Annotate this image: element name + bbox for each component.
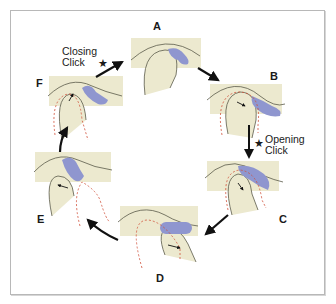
- arrow-a-to-b: [198, 68, 218, 80]
- closing-click-label: Closing Click: [62, 46, 97, 68]
- stage-label-c: C: [279, 214, 287, 225]
- stage-f-joint: [48, 76, 123, 140]
- opening-click-star-icon: ★: [254, 138, 264, 149]
- stage-a-joint: [131, 38, 201, 95]
- closing-click-star-icon: ★: [98, 58, 108, 69]
- stage-c-joint: [205, 161, 283, 215]
- stage-d-joint: [118, 206, 198, 268]
- stage-label-e: E: [37, 214, 44, 225]
- arrow-c-to-d: [206, 215, 228, 234]
- stage-label-b: B: [270, 71, 278, 82]
- arrow-d-to-e: [88, 220, 118, 240]
- stage-label-f: F: [36, 78, 43, 89]
- stage-label-a: A: [153, 21, 161, 32]
- stage-label-d: D: [156, 273, 164, 284]
- stage-e-joint: [34, 152, 112, 226]
- opening-click-label: Opening Click: [265, 134, 305, 156]
- stage-b-joint: [207, 84, 285, 138]
